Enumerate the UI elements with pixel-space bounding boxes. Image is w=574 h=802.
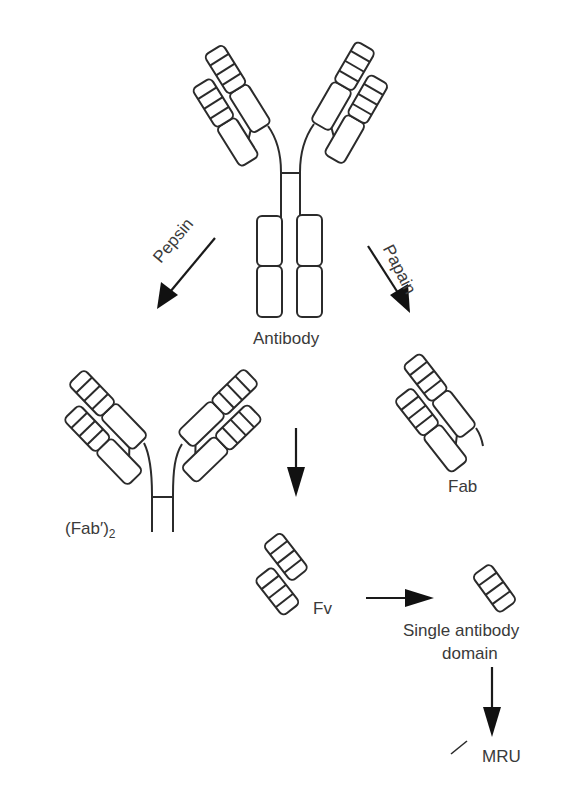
diagram-svg [0, 0, 574, 802]
fv-to-single-domain-arrow [366, 589, 434, 607]
antibody-right-arm [299, 41, 399, 165]
antibody-fc-right-lower [297, 266, 322, 317]
label-fab: Fab [448, 478, 477, 495]
antibody-fc-left-upper [257, 216, 282, 266]
mru-peptide-line [451, 741, 467, 754]
fab-tail [476, 428, 483, 446]
fab-structure [381, 353, 491, 474]
label-single-domain-line1: Single antibody [403, 622, 519, 639]
fab-arm [381, 353, 491, 474]
single-domain-structure [472, 563, 517, 613]
label-fab2-subscript: 2 [109, 527, 116, 541]
fab2-left-arm [48, 369, 163, 486]
label-fv: Fv [313, 600, 332, 617]
single-domain-to-mru-arrow [483, 667, 501, 737]
antibody-hinge-left [268, 126, 281, 218]
label-antibody: Antibody [253, 330, 319, 347]
antibody-hinge-right [300, 124, 314, 218]
fab2-structure [48, 368, 278, 532]
label-fab2: (Fab′)2 [65, 520, 116, 537]
label-single-domain-line2: domain [442, 645, 498, 662]
fab2-hinge-left [144, 443, 152, 532]
antibody-structure [180, 41, 400, 317]
antibody-fc-left-lower [257, 266, 282, 317]
fab2-to-fv-arrow [287, 428, 305, 497]
antibody-fragment-diagram: Antibody Pepsin Papain (Fab′)2 Fab Fv Si… [0, 0, 574, 802]
antibody-left-arm [180, 44, 283, 167]
fv-structure [241, 532, 322, 616]
fab2-hinge-right [173, 444, 182, 532]
label-fab2-main: (Fab′) [65, 519, 109, 538]
fab2-right-arm [162, 368, 279, 483]
antibody-fc-right-upper [297, 215, 322, 266]
label-mru: MRU [482, 748, 521, 765]
